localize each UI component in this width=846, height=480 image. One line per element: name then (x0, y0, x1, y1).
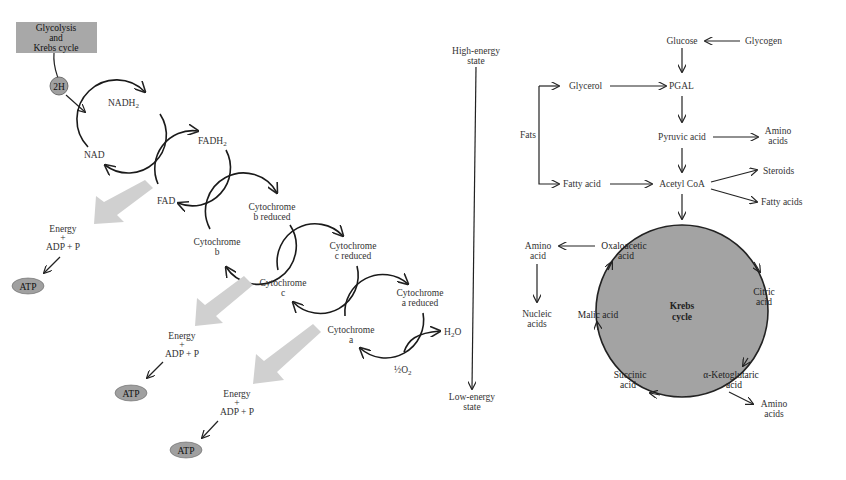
energy-site-3: Energy + ADP + P ATP (170, 389, 254, 458)
acetyl-coa-label: Acetyl CoA (659, 179, 705, 189)
nad-cycle-lower-arc (105, 114, 166, 173)
cyt-b-reduced-label-2: b reduced (253, 212, 290, 222)
svg-text:ATP: ATP (123, 389, 140, 399)
fad-cycle-lower-arc (178, 150, 230, 206)
citric-label-1: Citric (753, 287, 775, 297)
cyt-b-reduced-label-1: Cytochrome (249, 202, 296, 212)
cyt-c-cycle-lower-arc (293, 266, 358, 313)
fad-cycle-upper-arc (155, 131, 198, 184)
acetyl-to-steroids-arrow (711, 170, 757, 182)
svg-text:ADP + P: ADP + P (220, 407, 254, 417)
box-connector (54, 53, 58, 78)
glycerol-label: Glycerol (569, 81, 603, 91)
svg-text:ATP: ATP (20, 282, 37, 292)
ketoglutaric-label-1: α-Ketoglutaric (703, 370, 759, 380)
citric-label-2: acid (756, 297, 772, 307)
energy-axis-arrow (472, 67, 476, 389)
amino-acids-bottom-label-1: Amino (761, 399, 788, 409)
oxaloacetic-label-1: Oxaloacetic (601, 241, 646, 251)
fatty-acid-label: Fatty acid (563, 179, 601, 189)
amino-acids-bottom-label-2: acids (764, 409, 784, 419)
fadh2-label: FADH2 (198, 136, 227, 148)
malic-label: Malic acid (578, 310, 619, 320)
succinic-label-2: acid (620, 380, 636, 390)
cellular-respiration-diagram: Glycolysis and Krebs cycle 2H NADH2 NAD … (0, 0, 846, 480)
nadh2-label: NADH2 (108, 98, 139, 110)
svg-text:ADP + P: ADP + P (46, 242, 80, 252)
nad-cycle-upper-arc (77, 80, 145, 147)
nucleic-acids-label-1: Nucleic (522, 309, 552, 319)
metabolic-pathways: Glucose Glycogen Glycerol PGAL Fats Pyru… (520, 36, 803, 419)
steroids-label: Steroids (763, 166, 794, 176)
high-energy-label-1: High-energy (452, 46, 500, 56)
svg-text:ATP: ATP (178, 446, 195, 456)
fatty-acids-label: Fatty acids (761, 197, 803, 207)
oxygen-label: ½O2 (394, 365, 412, 377)
box-line-3: Krebs cycle (33, 43, 78, 53)
krebs-cycle: Krebs cycle Oxaloacetic acid Citric acid… (578, 225, 775, 397)
cyt-b-label-2: b (215, 247, 220, 257)
nad-label: NAD (84, 150, 105, 160)
krebs-title-2: cycle (672, 312, 692, 322)
to-atp-arrow (147, 362, 163, 378)
cyt-a-reduced-label-1: Cytochrome (397, 288, 444, 298)
pgal-label: PGAL (669, 81, 694, 91)
succinic-label-1: Succinic (614, 370, 647, 380)
energy-site-2: Energy + ADP + P ATP (115, 331, 199, 401)
amino-acids-top-label-1: Amino (765, 126, 792, 136)
glycolysis-krebs-box: Glycolysis and Krebs cycle (16, 22, 97, 53)
krebs-title-1: Krebs (670, 301, 695, 311)
pyruvic-acid-label: Pyruvic acid (658, 132, 706, 142)
ketoglutaric-to-amino-arrow (729, 392, 753, 404)
high-energy-label-2: state (467, 56, 484, 66)
energy-axis: High-energy state Low-energy state (449, 46, 500, 412)
cyt-c-reduced-label-2: c reduced (335, 251, 372, 261)
fad-label: FAD (157, 196, 175, 206)
cyt-c-label-1: Cytochrome (260, 278, 307, 288)
hydrogen-arrow (66, 95, 85, 112)
box-line-1: Glycolysis (36, 23, 77, 33)
glucose-label: Glucose (666, 36, 697, 46)
energy-release-arrow-2 (195, 276, 253, 326)
nucleic-acids-label-2: acids (527, 319, 547, 329)
amino-acids-top-label-2: acids (768, 136, 788, 146)
cyt-c-label-2: c (281, 288, 285, 298)
cyt-a-reduced-label-2: a reduced (402, 298, 439, 308)
cyt-a-cycle-lower-arc (360, 313, 424, 358)
energy-release-arrow-1 (94, 180, 153, 224)
cyt-b-label-1: Cytochrome (194, 237, 241, 247)
svg-text:2H: 2H (53, 82, 65, 92)
to-atp-arrow (44, 257, 60, 273)
glycogen-label: Glycogen (745, 36, 782, 46)
acetyl-to-fatty-acids-arrow (711, 189, 757, 202)
electron-transport-chain: Glycolysis and Krebs cycle 2H NADH2 NAD … (12, 22, 461, 458)
cyt-a-label-2: a (349, 335, 354, 345)
to-atp-arrow (202, 421, 218, 438)
low-energy-label-1: Low-energy (449, 392, 496, 402)
water-label: H2O (444, 327, 461, 339)
ketoglutaric-label-2: acid (726, 380, 742, 390)
svg-text:ADP + P: ADP + P (165, 349, 199, 359)
amino-acid-left-label-2: acid (530, 251, 546, 261)
energy-release-arrow-3 (253, 324, 321, 384)
fats-to-fatty-acid-arrow (539, 86, 559, 184)
energy-site-1: Energy + ADP + P ATP (12, 224, 80, 294)
cyt-b-cycle-lower-arc (226, 225, 296, 284)
cyt-c-reduced-label-1: Cytochrome (330, 241, 377, 251)
box-line-2: and (49, 33, 63, 43)
fats-label: Fats (520, 130, 536, 140)
amino-acid-left-label-1: Amino (525, 241, 552, 251)
low-energy-label-2: state (463, 402, 480, 412)
hydrogen-badge: 2H (50, 77, 68, 95)
oxaloacetic-label-2: acid (618, 251, 634, 261)
cyt-a-label-1: Cytochrome (328, 325, 375, 335)
